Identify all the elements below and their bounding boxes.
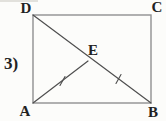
vertex-label-C: C	[152, 0, 163, 15]
geometry-diagram: D C A B E 3)	[0, 0, 166, 121]
vertex-label-D: D	[21, 0, 32, 16]
problem-number: 3)	[4, 54, 18, 73]
vertex-label-E: E	[88, 42, 98, 58]
vertex-label-B: B	[148, 104, 158, 120]
tick-mark-EB	[116, 75, 121, 84]
diagram-canvas: D C A B E 3)	[0, 0, 166, 121]
segment-AE	[33, 61, 88, 103]
tick-mark-AE	[60, 77, 65, 86]
vertex-label-A: A	[20, 103, 31, 119]
